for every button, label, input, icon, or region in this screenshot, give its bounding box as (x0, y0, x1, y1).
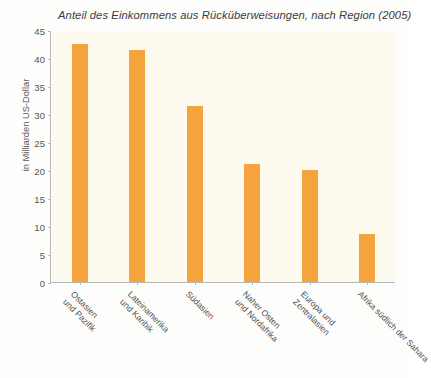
y-tick-label: 10 (34, 222, 45, 233)
y-axis-title: in Milliarden US-Dollar (21, 55, 31, 195)
y-tick-mark (48, 255, 51, 256)
x-tick-mark (195, 282, 196, 285)
x-tick-label: Ostasienund Pazifik (61, 289, 106, 334)
x-tick-label: Südasien (183, 289, 216, 322)
x-tick-mark (367, 282, 368, 285)
y-tick-mark (48, 115, 51, 116)
plot-area: 051015202530354045 Ostasienund PazifikLa… (50, 31, 395, 283)
bar (72, 44, 88, 282)
y-tick-label: 15 (34, 194, 45, 205)
y-tick-mark (48, 143, 51, 144)
y-tick-mark (48, 171, 51, 172)
x-tick-label: Naher Ostenund Nordafrika (233, 289, 288, 344)
y-tick-label: 30 (34, 110, 45, 121)
bar (129, 50, 145, 282)
y-tick-label: 40 (34, 54, 45, 65)
y-tick-mark (48, 227, 51, 228)
y-tick-mark (48, 283, 51, 284)
y-tick-mark (48, 31, 51, 32)
y-tick-mark (48, 59, 51, 60)
y-tick-mark (48, 87, 51, 88)
y-tick-label: 35 (34, 82, 45, 93)
y-tick-label: 5 (40, 250, 45, 261)
x-tick-mark (137, 282, 138, 285)
x-tick-label: Europa undZentralasien (291, 289, 340, 338)
x-tick-label: Afrika südlich der Sahara (356, 289, 431, 364)
y-tick-label: 25 (34, 138, 45, 149)
bar (244, 164, 260, 282)
bar (302, 170, 318, 282)
x-tick-mark (310, 282, 311, 285)
chart-title: Anteil des Einkommens aus Rücküberweisun… (58, 9, 403, 21)
x-tick-label-line: Afrika südlich der Sahara (356, 289, 431, 364)
x-tick-label-line: Südasien (183, 289, 216, 322)
y-tick-label: 20 (34, 166, 45, 177)
x-tick-mark (252, 282, 253, 285)
y-tick-label: 45 (34, 26, 45, 37)
x-tick-mark (80, 282, 81, 285)
x-tick-label: Lateinamerikaund Karibik (118, 289, 171, 342)
y-tick-mark (48, 199, 51, 200)
bar (359, 234, 375, 282)
y-tick-label: 0 (40, 278, 45, 289)
bar (187, 106, 203, 282)
